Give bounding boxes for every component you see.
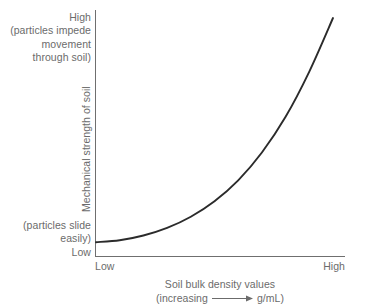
right-arrow-icon xyxy=(212,294,254,303)
y-axis-title: Mechanical strength of soil xyxy=(80,12,92,212)
y-axis-low-annotation: (particles slide easily) Low xyxy=(0,219,91,259)
y-axis-high-label: High xyxy=(0,11,91,24)
y-axis-high-note-line1: (particles impede xyxy=(0,24,91,37)
y-axis-low-label: Low xyxy=(0,246,91,259)
x-axis-subtitle-prefix: (increasing xyxy=(156,291,208,305)
x-axis-tick-high: High xyxy=(245,260,345,272)
x-axis-subtitle: (increasing g/mL) xyxy=(95,291,345,305)
x-axis-title: Soil bulk density values xyxy=(95,277,345,291)
y-axis-high-annotation: High (particles impede movement through … xyxy=(0,11,91,64)
x-axis-tick-low: Low xyxy=(95,260,114,272)
data-curve xyxy=(96,18,333,242)
x-axis-subtitle-suffix: g/mL) xyxy=(257,291,284,305)
x-axis-title-block: Soil bulk density values (increasing g/m… xyxy=(95,277,345,305)
y-axis-low-note-line2: easily) xyxy=(0,232,91,245)
y-axis-high-note-line2: movement xyxy=(0,38,91,51)
y-axis-high-note-line3: through soil) xyxy=(0,51,91,64)
chart-figure: High (particles impede movement through … xyxy=(0,0,365,307)
y-axis-low-note-line1: (particles slide xyxy=(0,219,91,232)
